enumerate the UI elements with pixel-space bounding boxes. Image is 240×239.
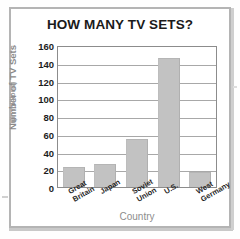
y-axis-tick-label: 20 bbox=[43, 165, 54, 176]
y-axis-tick-labels: 020406080100120140160 bbox=[26, 46, 54, 188]
y-axis-tick-label: 160 bbox=[38, 41, 54, 52]
chart-title: HOW MANY TV SETS? bbox=[0, 17, 240, 32]
bar-series bbox=[58, 47, 216, 187]
y-axis-tick-label: 80 bbox=[43, 112, 54, 123]
y-axis-tick-label: 120 bbox=[38, 76, 54, 87]
y-axis-tick-label: 140 bbox=[38, 58, 54, 69]
frame-shadow-bottom bbox=[9, 228, 233, 231]
y-axis-tick-label: 40 bbox=[43, 147, 54, 158]
bar bbox=[158, 58, 180, 187]
plot-area bbox=[57, 46, 217, 188]
y-axis-tick-label: 60 bbox=[43, 129, 54, 140]
y-axis-subtitle: (in millions) bbox=[9, 62, 16, 142]
y-axis-tick-label: 100 bbox=[38, 94, 54, 105]
scan-artifact-right bbox=[233, 86, 237, 88]
scan-artifact-left bbox=[2, 196, 8, 198]
chart-figure: HOW MANY TV SETS? Number of TV Sets (in … bbox=[0, 0, 240, 239]
y-axis-tick-label: 0 bbox=[49, 183, 54, 194]
frame-shadow-right bbox=[231, 8, 234, 230]
x-axis-title: Country bbox=[57, 211, 217, 222]
